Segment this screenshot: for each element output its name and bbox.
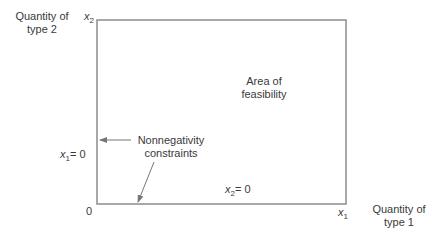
y-axis-label: Quantity of type 2 — [2, 10, 82, 36]
origin-label: 0 — [86, 205, 92, 218]
constraints-label: Nonnegativity constraints — [130, 134, 212, 160]
y-axis-label-line1: Quantity of — [2, 10, 82, 23]
x1-eq: = 0 — [70, 148, 86, 160]
x-var-sub: 1 — [344, 212, 348, 221]
y-variable-label: x2 — [84, 10, 94, 25]
y-var-sub: 2 — [90, 16, 94, 25]
x-axis-label: Quantity of type 1 — [366, 203, 432, 228]
x2-eq: = 0 — [235, 183, 251, 195]
x-variable-label: x1 — [338, 206, 348, 221]
arrow-to-x2-axis — [138, 162, 154, 202]
constraints-label-line2: constraints — [130, 147, 212, 160]
x-axis-label-line1: Quantity of — [366, 203, 432, 216]
feasible-region-box — [97, 20, 346, 204]
x-axis-label-line2: type 1 — [366, 216, 432, 228]
feasibility-region-label: Area of feasibility — [214, 75, 314, 101]
constraints-label-line1: Nonnegativity — [130, 134, 212, 147]
x2-equals-zero-label: x2= 0 — [225, 183, 251, 198]
region-label-line2: feasibility — [214, 88, 314, 101]
region-label-line1: Area of — [214, 75, 314, 88]
y-axis-label-line2: type 2 — [2, 23, 82, 36]
x1-equals-zero-label: x1= 0 — [60, 148, 86, 163]
